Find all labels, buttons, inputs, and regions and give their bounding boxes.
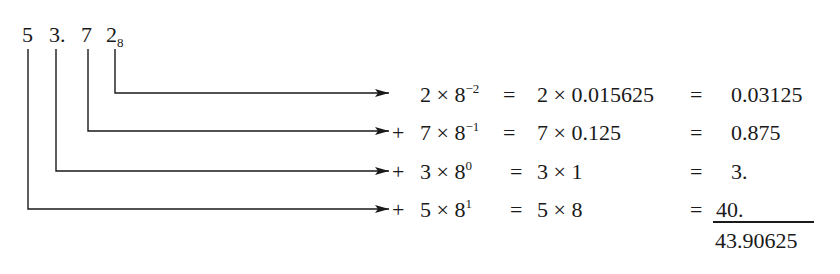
row-4-expansion: 5 × 8 [537,199,582,221]
row-4-value: 40. [716,199,744,221]
row-3-plus: + [392,161,404,183]
arrow-digit-3 [56,49,389,171]
row-2-digit: 7 [420,120,431,145]
row-3-base: 8 [454,159,465,184]
sum-total: 43.90625 [715,230,798,252]
row-3-value: 3. [731,161,748,183]
row-4-term: 5 × 81 [420,199,472,221]
row-2-expansion: 7 × 0.125 [537,122,621,144]
sum-underline [713,221,814,223]
row-2-term: 7 × 8−1 [420,122,479,144]
row-1-times: × [437,82,449,107]
base-subscript: 8 [117,35,124,50]
row-3-times: × [437,159,449,184]
row-4-digit: 5 [420,197,431,222]
octal-digit-5: 5 [22,24,33,46]
row-2-value: 0.875 [731,122,781,144]
row-2-times: × [437,120,449,145]
row-4-eq1: = [510,199,522,221]
arrow-digit-2 [115,49,389,93]
row-4-plus: + [392,199,404,221]
row-1-value: 0.03125 [731,84,803,106]
row-1-expansion: 2 × 0.015625 [537,84,654,106]
octal-digit-7: 7 [81,24,92,46]
row-4-eq2: = [690,199,702,221]
row-3-eq2: = [690,161,702,183]
row-1-term: 2 × 8−2 [420,84,479,106]
row-3-digit: 3 [420,159,431,184]
row-1-eq1: = [503,84,515,106]
row-4-times: × [437,197,449,222]
arrow-digit-7 [88,49,389,131]
row-4-base: 8 [454,197,465,222]
octal-to-decimal-diagram: 5 3. 7 28 2 × 8−2 = 2 × 0.015625 = 0.031… [0,0,840,274]
row-3-exponent: 0 [465,158,472,173]
row-1-digit: 2 [420,82,431,107]
row-4-exponent: 1 [465,196,472,211]
row-1-eq2: = [690,84,702,106]
row-2-exponent: −1 [465,119,479,134]
row-2-eq1: = [503,122,515,144]
row-3-expansion: 3 × 1 [537,161,582,183]
row-1-base: 8 [454,82,465,107]
row-3-term: 3 × 80 [420,161,472,183]
row-3-eq1: = [510,161,522,183]
octal-digit-2: 28 [106,24,124,46]
arrow-digit-5 [28,49,389,209]
row-2-plus: + [392,122,404,144]
octal-digit-2-label: 2 [106,22,117,47]
row-2-eq2: = [690,122,702,144]
octal-digit-3: 3. [49,24,66,46]
row-2-base: 8 [454,120,465,145]
row-1-exponent: −2 [465,81,479,96]
